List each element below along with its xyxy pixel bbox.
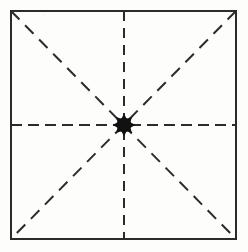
geometric-diagram <box>0 0 248 252</box>
center-point-marker <box>113 114 136 137</box>
figure-root <box>0 0 248 252</box>
center-dot <box>117 118 132 133</box>
